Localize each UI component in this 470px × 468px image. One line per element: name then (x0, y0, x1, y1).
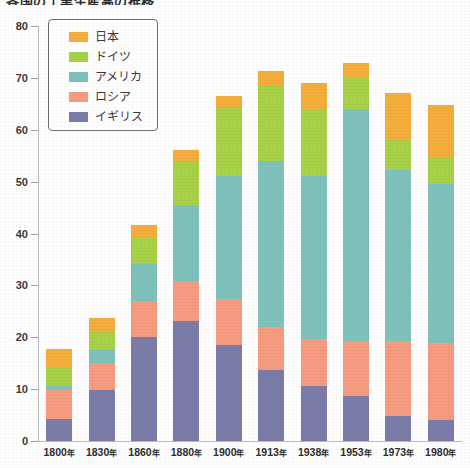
bar-segment (46, 390, 72, 419)
bar-segment (216, 345, 242, 441)
bar-segment (385, 140, 411, 170)
y-axis-tick-label: 10 (0, 384, 28, 395)
bar-segment (216, 96, 242, 108)
bar-segment (428, 157, 454, 184)
x-axis-tick-label: 1938年 (292, 447, 336, 458)
legend-item-2[interactable]: アメリカ (49, 67, 157, 87)
bar-segment (428, 105, 454, 157)
stacked-bar-chart: 各国の工業生産高の推移 80706050403020100 1800年1830年… (0, 0, 470, 468)
bar-group (258, 0, 284, 441)
bar-segment (343, 396, 369, 441)
y-axis-tick (31, 234, 38, 235)
bar-segment (385, 341, 411, 416)
bar-segment (428, 184, 454, 343)
bar-segment (428, 343, 454, 420)
y-axis-tick (31, 182, 38, 183)
bar-group (216, 0, 242, 441)
legend-color-swatch (69, 52, 88, 62)
x-axis-line (38, 441, 462, 442)
legend-color-swatch (69, 72, 88, 82)
bar-segment (131, 301, 157, 337)
legend-item-label: 日本 (95, 31, 119, 43)
bar-segment (173, 321, 199, 441)
bar-segment (173, 281, 199, 320)
y-axis-tick (31, 130, 38, 131)
bar-segment (385, 416, 411, 441)
legend-item-label: イギリス (95, 111, 143, 123)
bar-segment (173, 150, 199, 161)
x-axis-tick-label: 1913年 (249, 447, 293, 458)
bar-segment (89, 363, 115, 390)
y-axis-tick-label: 70 (0, 73, 28, 84)
bar-segment (301, 386, 327, 442)
bar-segment (428, 420, 454, 441)
bar-segment (385, 170, 411, 341)
y-axis-tick (31, 285, 38, 286)
bar-segment (131, 337, 157, 441)
y-axis-tick-label: 30 (0, 280, 28, 291)
bar-stack (258, 71, 284, 441)
bar-segment (343, 341, 369, 397)
bar-group (385, 0, 411, 441)
y-axis-tick-label: 0 (0, 436, 28, 447)
bar-group (343, 0, 369, 441)
y-axis-tick-label: 80 (0, 21, 28, 32)
y-axis-tick (31, 389, 38, 390)
legend-item-label: アメリカ (95, 71, 142, 83)
y-axis-tick-label: 20 (0, 332, 28, 343)
legend-item-1[interactable]: ドイツ (49, 47, 157, 67)
bar-segment (173, 161, 199, 205)
x-axis-tick-label: 1860年 (122, 447, 166, 458)
bar-stack (131, 225, 157, 441)
bar-stack (173, 150, 199, 441)
legend-color-swatch (69, 32, 88, 42)
y-axis-line (38, 26, 39, 442)
bar-segment (301, 339, 327, 386)
bar-segment (343, 63, 369, 78)
bar-segment (89, 331, 115, 350)
bar-segment (258, 85, 284, 162)
y-axis-tick (31, 78, 38, 79)
legend-item-label: ドイツ (95, 51, 131, 63)
chart-legend: 日本ドイツアメリカロシアイギリス (48, 19, 158, 131)
bar-stack (216, 96, 242, 441)
x-axis-tick-label: 1900年 (207, 447, 251, 458)
legend-item-label: ロシア (95, 91, 131, 103)
bar-segment (131, 238, 157, 263)
x-axis-tick-label: 1973年 (376, 447, 420, 458)
bar-segment (301, 110, 327, 176)
bar-stack (46, 349, 72, 441)
y-axis-tick (31, 337, 38, 338)
legend-item-4[interactable]: イギリス (49, 107, 157, 127)
bar-segment (343, 109, 369, 341)
bar-segment (131, 225, 157, 238)
legend-item-3[interactable]: ロシア (49, 87, 157, 107)
bar-segment (173, 205, 199, 281)
bar-stack (385, 93, 411, 441)
legend-item-0[interactable]: 日本 (49, 27, 157, 47)
y-axis-tick (31, 26, 38, 27)
legend-color-swatch (69, 92, 88, 102)
bar-segment (89, 318, 115, 331)
x-axis-tick-label: 1953年 (334, 447, 378, 458)
bar-segment (46, 367, 72, 385)
y-axis-tick-label: 50 (0, 177, 28, 188)
x-axis-tick-label: 1880年 (164, 447, 208, 458)
bar-stack (428, 105, 454, 441)
bar-segment (385, 93, 411, 140)
bar-segment (301, 176, 327, 339)
bar-segment (89, 350, 115, 362)
legend-color-swatch (69, 112, 88, 122)
bar-segment (46, 349, 72, 367)
bar-group (301, 0, 327, 441)
bar-segment (258, 71, 284, 85)
bar-segment (301, 83, 327, 110)
bar-segment (131, 264, 157, 301)
bar-segment (89, 390, 115, 441)
bar-stack (301, 83, 327, 441)
bar-stack (343, 63, 369, 441)
y-axis-tick-label: 40 (0, 229, 28, 240)
bar-segment (46, 419, 72, 441)
bar-stack (89, 318, 115, 441)
bar-segment (258, 370, 284, 441)
